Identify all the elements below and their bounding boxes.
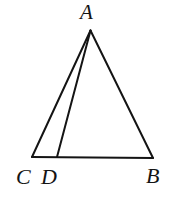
triangle-segments	[32, 31, 153, 159]
vertex-label-a: A	[80, 2, 93, 23]
vertex-label-c: C	[16, 166, 31, 188]
geometry-figure: A C D B	[0, 0, 179, 206]
segment-ab	[91, 31, 154, 159]
vertex-label-d: D	[41, 166, 57, 188]
vertex-label-b: B	[146, 165, 159, 187]
segment-cb-base	[32, 157, 153, 158]
